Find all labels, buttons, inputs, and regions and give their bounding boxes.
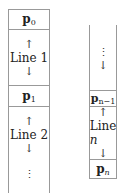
- line-label: Line 1: [10, 51, 48, 65]
- cell-p1: p1: [9, 85, 49, 107]
- cell-line-1: ↑ Line 1 ↓: [9, 30, 49, 86]
- cell-ellipsis: ⋮: [9, 161, 49, 187]
- cell-p0: p0: [9, 9, 49, 30]
- vertical-ellipsis-icon: ⋮: [98, 46, 109, 59]
- line-label: Line 2: [10, 128, 48, 142]
- down-arrow-icon: ↓: [98, 59, 107, 72]
- point-subscript: 0: [31, 18, 36, 27]
- line-label: Line n: [90, 119, 117, 147]
- cell-p-n: pn: [90, 159, 116, 178]
- cell-line-2: ↑ Line 2 ↓: [9, 107, 49, 163]
- down-arrow-icon: ↓: [24, 65, 33, 78]
- point-label: p: [22, 89, 30, 103]
- left-column: p0 ↑ Line 1 ↓ p1 ↑ Line 2 ↓ ⋮: [8, 9, 50, 193]
- point-subscript: 1: [31, 95, 36, 104]
- cell-line-n: ↑ Line n ↓: [90, 107, 116, 159]
- line-label-prefix: Line: [90, 119, 117, 133]
- point-label: p: [96, 162, 104, 176]
- point-label: p: [22, 12, 30, 26]
- cell-p-n-minus-1: pn−1: [90, 90, 116, 107]
- point-subscript: n−1: [98, 97, 115, 106]
- right-column: ⋮ ↓ pn−1 ↑ Line n ↓ pn: [89, 25, 117, 179]
- vertical-ellipsis-icon: ⋮: [24, 168, 35, 181]
- up-arrow-icon: ↑: [24, 38, 33, 51]
- up-arrow-icon: ↑: [24, 115, 33, 128]
- line-label-var: n: [90, 133, 98, 147]
- down-arrow-icon: ↓: [24, 142, 33, 155]
- up-arrow-icon: ↑: [98, 106, 107, 119]
- cell-ellipsis: ⋮ ↓: [90, 29, 116, 89]
- point-subscript: n: [105, 168, 110, 177]
